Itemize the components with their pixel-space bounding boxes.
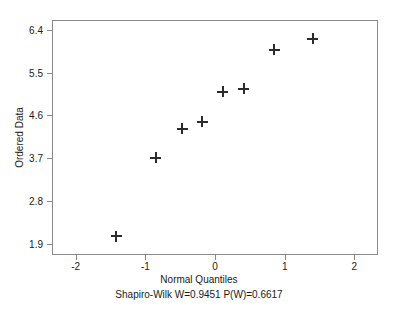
x-tick-label: 2 (352, 261, 358, 272)
x-tick-label: -2 (71, 261, 80, 272)
y-tick-label: 3.7 (29, 153, 43, 164)
y-tick (47, 30, 52, 31)
y-axis-title-wrap: Ordered Data (8, 255, 24, 317)
x-tick (215, 255, 216, 260)
x-tick (145, 255, 146, 260)
x-tick (354, 255, 355, 260)
y-tick-label: 5.5 (29, 67, 43, 78)
y-tick (47, 73, 52, 74)
x-axis-title: Normal Quantiles (0, 274, 398, 285)
plot-frame (52, 20, 378, 255)
y-tick-label: 2.8 (29, 195, 43, 206)
x-tick (76, 255, 77, 260)
y-tick-label: 6.4 (29, 24, 43, 35)
y-tick (47, 201, 52, 202)
x-tick (285, 255, 286, 260)
y-tick-label: 4.6 (29, 110, 43, 121)
y-tick (47, 115, 52, 116)
y-tick-label: 1.9 (29, 238, 43, 249)
x-tick-label: 0 (212, 261, 218, 272)
qq-plot-figure: -2-1012 1.92.83.74.65.56.4 Ordered Data … (0, 0, 398, 317)
y-tick (47, 244, 52, 245)
x-tick-label: -1 (141, 261, 150, 272)
y-axis-title: Ordered Data (12, 20, 28, 255)
x-tick-label: 1 (282, 261, 288, 272)
chart-subtitle: Shapiro-Wilk W=0.9451 P(W)=0.6617 (0, 289, 398, 300)
y-tick (47, 158, 52, 159)
